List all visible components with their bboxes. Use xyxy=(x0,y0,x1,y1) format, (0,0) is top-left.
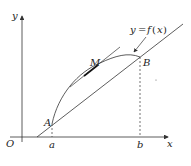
y-axis-label: y xyxy=(11,10,18,21)
svg-text:y: y xyxy=(129,24,136,35)
x-axis-label: x xyxy=(167,138,173,149)
svg-text:): ) xyxy=(163,24,167,35)
svg-text:(: ( xyxy=(152,24,156,35)
secant-line xyxy=(37,24,183,137)
label-pointer-arrow xyxy=(134,37,146,52)
curve-equation-label: y = f ( x ) xyxy=(129,24,167,35)
point-label-b: B xyxy=(142,57,150,68)
point-label-m: M xyxy=(89,57,101,68)
point-label-a: A xyxy=(43,117,51,128)
stray-dot xyxy=(155,79,156,80)
mean-value-diagram: y x O a b A B M y = f ( x ) xyxy=(0,0,191,166)
tick-label-b: b xyxy=(137,139,143,150)
origin-label: O xyxy=(6,138,14,149)
tick-label-a: a xyxy=(49,139,55,150)
svg-text:=: = xyxy=(138,24,146,35)
